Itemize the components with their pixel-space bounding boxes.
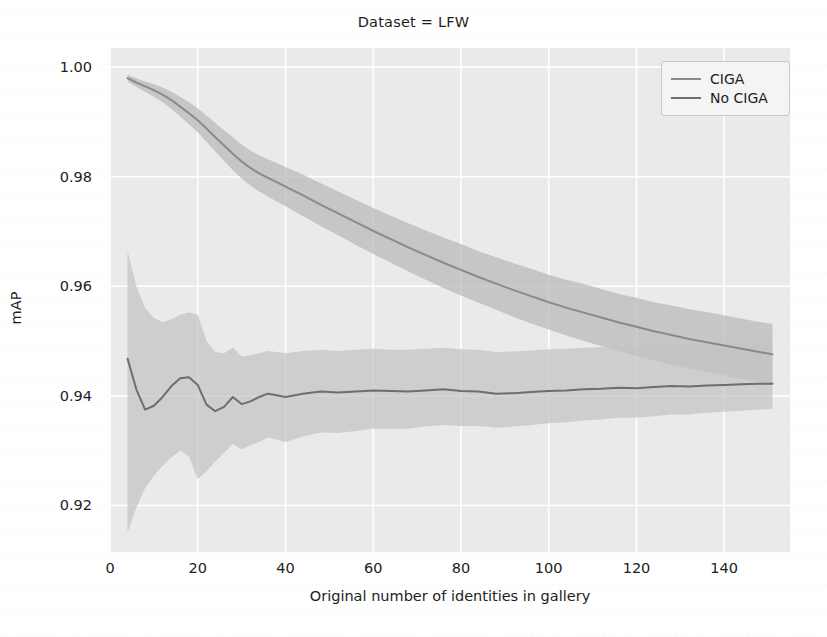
legend-line-swatch-no-ciga [671,97,701,99]
x-tick-label: 40 [276,560,294,576]
x-axis-label: Original number of identities in gallery [110,588,790,604]
legend-item-no-ciga[interactable]: No CIGA [671,88,780,107]
y-axis-label: mAP [8,292,24,325]
y-tick-label: 0.98 [0,169,102,185]
x-tick-label: 20 [188,560,206,576]
legend-line-swatch-ciga [671,78,701,80]
chart-figure: Dataset = LFW 0.920.940.960.981.00 mAP 0… [0,0,827,637]
legend-label-ciga: CIGA [710,71,744,87]
chart-title: Dataset = LFW [0,14,827,30]
x-tick-label: 120 [623,560,651,576]
x-tick-label: 80 [452,560,470,576]
x-tick-label: 140 [710,560,738,576]
legend-item-ciga[interactable]: CIGA [671,69,780,88]
x-tick-label: 100 [535,560,563,576]
plot-area [110,48,790,552]
legend-label-no-ciga: No CIGA [710,90,768,106]
confidence-band-ciga [128,75,773,385]
y-tick-label: 0.94 [0,388,102,404]
y-tick-label: 0.92 [0,497,102,513]
confidence-band-no-ciga [128,251,773,533]
plot-canvas [110,48,790,552]
y-tick-label: 1.00 [0,59,102,75]
chart-legend: CIGA No CIGA [661,61,790,116]
x-tick-label: 0 [105,560,114,576]
x-tick-label: 60 [364,560,382,576]
x-axis-tick-labels: 020406080100120140 [110,560,790,580]
